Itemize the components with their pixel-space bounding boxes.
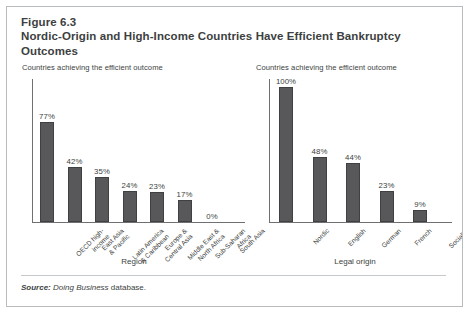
bar [346,163,360,222]
source-prefix: Source: [21,283,51,292]
bar-group: 17% [178,79,192,222]
bar-group: 35% [95,79,109,222]
bar-value-label: 35% [94,167,110,176]
x-axis-category-label: English [346,227,367,248]
bar-value-label: 17% [177,190,193,199]
bar-value-label: 23% [149,182,165,191]
x-axis-category-label: German [380,227,402,249]
bar-value-label: 24% [122,181,138,190]
figure-header: Figure 6.3 Nordic-Origin and High-Income… [21,15,446,58]
source-note: Source: Doing Business database. [21,283,146,292]
bar [313,157,327,222]
chart-subtitle-region: Countries achieving the efficient outcom… [22,63,163,72]
bar-value-label: 77% [39,112,55,121]
x-axis-line-region [32,222,245,223]
bar-group: 9% [413,79,427,222]
bar [279,87,293,222]
bar [95,177,109,223]
bar-group: 77% [40,79,54,222]
bar-value-label: 42% [67,157,83,166]
bar [413,210,427,222]
bar-value-label: 23% [379,181,395,190]
bar-group: 100% [279,79,293,222]
bar [123,191,137,222]
bar [150,192,164,222]
chart-subtitle-legal-origin: Countries achieving the efficient outcom… [256,63,397,72]
bar-series-legal-origin: 100%48%44%23%9% [270,79,452,222]
figure-container: Figure 6.3 Nordic-Origin and High-Income… [6,6,463,307]
figure-title: Nordic-Origin and High-Income Countries … [21,29,446,58]
source-publication: Doing Business [53,283,109,292]
bar-group: 24% [123,79,137,222]
source-rest: database. [111,283,146,292]
plot-area-legal-origin: 100%48%44%23%9% [269,79,452,223]
figure-number: Figure 6.3 [21,15,446,29]
bar-series-region: 77%42%35%24%23%17%0% [33,79,245,222]
bar [380,191,394,222]
source-divider [21,275,446,276]
bar-group: 23% [380,79,394,222]
bar [68,167,82,222]
bar-group: 48% [313,79,327,222]
bar-group: 42% [68,79,82,222]
bar-group: 44% [346,79,360,222]
bar-value-label: 44% [345,153,361,162]
bar-group: 0% [205,79,219,222]
bar-value-label: 0% [206,212,217,221]
bar-value-label: 48% [312,147,328,156]
x-axis-category-label: Nordic [312,227,331,246]
x-axis-category-label: French [413,227,433,247]
x-axis-title-legal-origin: Legal origin [255,257,455,266]
plot-area-region: 77%42%35%24%23%17%0% [32,79,245,223]
bar-value-label: 100% [276,77,296,86]
bar-group: 23% [150,79,164,222]
x-axis-line-legal-origin [269,222,452,223]
x-axis-title-region: Region [21,257,247,266]
bar [40,122,54,222]
x-axis-category-label: Socialist [447,227,463,250]
bar [178,200,192,222]
bar-value-label: 9% [414,200,425,209]
